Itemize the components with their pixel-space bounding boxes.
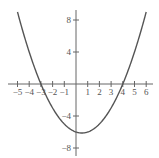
x-tick-label: 2 — [97, 87, 102, 97]
x-tick-label: 6 — [144, 87, 149, 97]
x-tick-label: −4 — [24, 87, 34, 97]
x-tick-label: −5 — [13, 87, 23, 97]
x-tick-label: 3 — [109, 87, 114, 97]
y-tick-label: 4 — [67, 47, 72, 57]
x-ticks: −5−4−3−2−1123456 — [13, 81, 149, 97]
x-tick-label: −2 — [48, 87, 58, 97]
x-tick-label: −1 — [60, 87, 70, 97]
axes — [8, 10, 153, 156]
x-tick-label: 5 — [132, 87, 137, 97]
parabola-chart: −5−4−3−2−1123456 84−4−8 — [0, 0, 159, 158]
y-tick-label: −8 — [61, 143, 71, 153]
parabola-curve — [18, 12, 147, 133]
x-tick-label: 1 — [85, 87, 90, 97]
y-tick-label: 8 — [67, 15, 72, 25]
y-tick-label: −4 — [61, 111, 71, 121]
